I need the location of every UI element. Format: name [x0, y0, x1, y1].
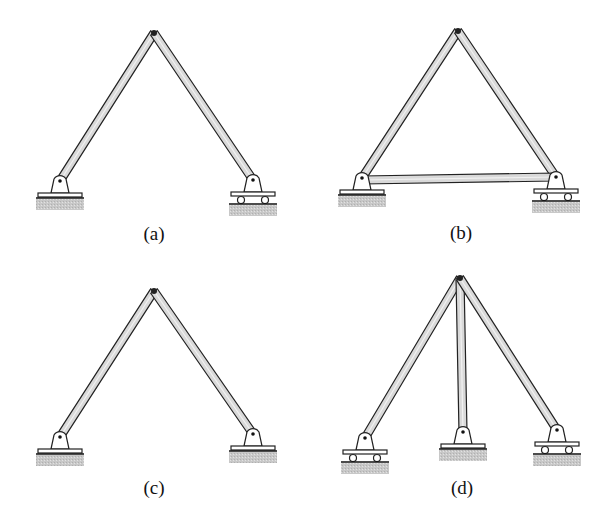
figure-canvas: (a) (b) (c) (d) — [0, 0, 611, 521]
pin-icon — [58, 435, 62, 439]
member-highlight — [458, 31, 556, 177]
panel-label: (b) — [450, 222, 472, 244]
roller-wheel-icon — [238, 197, 245, 204]
panel-b: (b) — [338, 28, 580, 244]
member-highlight — [154, 291, 253, 434]
pin-support — [439, 427, 487, 461]
panel-c: (c) — [36, 288, 277, 499]
pin-icon — [251, 178, 255, 182]
ground-hatch — [439, 450, 487, 461]
pin-icon — [360, 176, 364, 180]
ground-hatch — [229, 452, 277, 463]
roller-plate — [534, 189, 578, 193]
ground-hatch — [229, 205, 277, 216]
base-plate — [231, 446, 275, 450]
base-plate — [38, 193, 82, 197]
member-highlight — [460, 278, 557, 430]
roller-support — [533, 425, 581, 466]
roller-plate — [343, 450, 387, 454]
apex-joint-icon — [455, 28, 461, 34]
ground-hatch — [338, 196, 386, 207]
pin-icon — [554, 175, 558, 179]
roller-plate — [231, 192, 275, 196]
member-highlight — [60, 291, 154, 437]
apex-joint-icon — [151, 30, 157, 36]
roller-wheel-icon — [565, 194, 572, 201]
ground-hatch — [341, 463, 389, 474]
panel-label: (a) — [143, 223, 164, 245]
base-plate — [340, 190, 384, 194]
ground-hatch — [532, 202, 580, 213]
pin-support — [36, 432, 84, 466]
panel-a: (a) — [36, 30, 277, 245]
pin-support — [36, 176, 84, 210]
base-plate — [441, 444, 485, 448]
pin-icon — [363, 436, 367, 440]
roller-wheel-icon — [542, 447, 549, 454]
base-plate — [38, 449, 82, 453]
pin-support — [229, 429, 277, 463]
pin-icon — [251, 432, 255, 436]
pin-icon — [555, 428, 559, 432]
roller-wheel-icon — [262, 197, 269, 204]
support-bracket — [454, 427, 472, 444]
apex-joint-icon — [457, 275, 463, 281]
pin-icon — [58, 179, 62, 183]
member-highlight — [362, 31, 458, 178]
pin-icon — [461, 430, 465, 434]
ground-hatch — [36, 199, 84, 210]
panel-label: (d) — [451, 477, 473, 499]
roller-support — [341, 433, 389, 474]
roller-support — [229, 175, 277, 216]
member-highlight — [365, 278, 460, 438]
member-highlight — [154, 33, 253, 180]
roller-wheel-icon — [350, 455, 357, 462]
roller-wheel-icon — [541, 194, 548, 201]
panel-label: (c) — [143, 477, 164, 499]
ground-hatch — [533, 455, 581, 466]
roller-plate — [535, 442, 579, 446]
panel-d: (d) — [341, 275, 581, 499]
apex-joint-icon — [151, 288, 157, 294]
roller-wheel-icon — [566, 447, 573, 454]
member-highlight — [60, 33, 154, 181]
roller-wheel-icon — [374, 455, 381, 462]
ground-hatch — [36, 455, 84, 466]
